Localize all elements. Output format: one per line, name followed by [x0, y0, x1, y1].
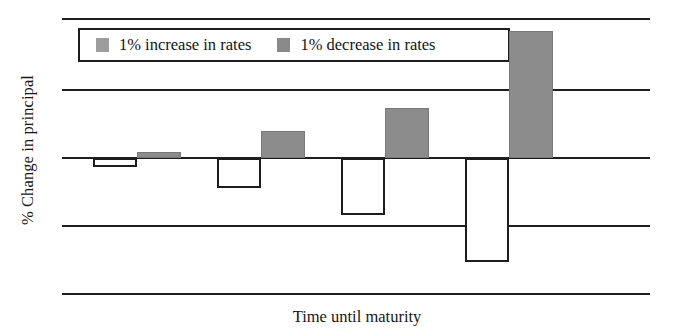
legend-entry-increase: 1% increase in rates — [96, 35, 251, 55]
legend-label-decrease: 1% decrease in rates — [300, 35, 435, 55]
legend-label-increase: 1% increase in rates — [119, 35, 251, 55]
legend-swatch-increase — [96, 38, 109, 52]
gridline-3 — [62, 225, 650, 227]
bar-increase-3 — [341, 158, 385, 215]
bar-decrease-3 — [385, 108, 429, 158]
bar-decrease-2 — [261, 131, 305, 158]
bar-decrease-4 — [509, 31, 553, 159]
bar-increase-4 — [465, 158, 509, 262]
legend-swatch-decrease — [277, 38, 290, 52]
y-axis-label: % Change in principal — [0, 0, 56, 300]
y-axis-label-text: % Change in principal — [18, 75, 38, 225]
plot-area: 1% increase in rates 1% decrease in rate… — [62, 0, 652, 300]
gridline-1 — [62, 89, 650, 91]
legend-entry-decrease: 1% decrease in rates — [277, 35, 435, 55]
chart-legend: 1% increase in rates 1% decrease in rate… — [78, 28, 510, 62]
gridline-4 — [62, 293, 650, 295]
bar-increase-2 — [217, 158, 261, 188]
chart-figure: % Change in principal 1% increase in rat… — [0, 0, 683, 334]
bar-increase-1 — [93, 158, 137, 167]
gridline-0 — [62, 18, 650, 20]
bar-decrease-1 — [137, 152, 181, 158]
x-axis-label: Time until maturity — [62, 300, 652, 334]
